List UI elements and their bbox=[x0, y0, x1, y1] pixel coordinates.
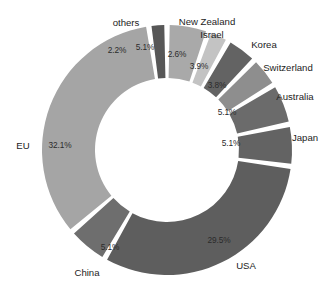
slice-label-japan: Japan bbox=[292, 132, 318, 143]
slice-label-others: others bbox=[113, 17, 140, 28]
slice-value-korea: 3.9% bbox=[190, 61, 209, 71]
slice-label-usa: USA bbox=[236, 260, 256, 271]
slice-value-usa: 29.5% bbox=[207, 235, 230, 245]
donut-slice-japan bbox=[238, 127, 292, 164]
slice-value-australia: 5.1% bbox=[218, 107, 237, 117]
slice-value-eu: 32.1% bbox=[48, 140, 71, 150]
slice-label-switzerland: Switzerland bbox=[263, 62, 313, 73]
slice-label-australia: Australia bbox=[276, 91, 313, 102]
donut-slice-usa bbox=[107, 161, 290, 275]
slice-label-new-zealand: New Zealand bbox=[179, 16, 236, 27]
slice-value-china: 5.1% bbox=[101, 242, 120, 252]
slice-value-japan: 5.1% bbox=[222, 138, 241, 148]
slice-value-new-zealand: 5.1% bbox=[136, 42, 155, 52]
slice-label-china: China bbox=[74, 267, 99, 278]
slice-label-korea: Korea bbox=[251, 39, 277, 50]
slice-value-israel: 2.6% bbox=[168, 49, 187, 59]
slice-label-israel: Israel bbox=[200, 29, 223, 40]
donut-slice-eu bbox=[42, 27, 155, 230]
slice-value-switzerland: 3.8% bbox=[208, 80, 227, 90]
donut-slices bbox=[42, 25, 292, 275]
donut-chart: 5.1% 2.6% 3.9% 3.8% 5.1% 5.1% 29.5% 5.1%… bbox=[0, 0, 335, 291]
slice-value-others: 2.2% bbox=[108, 45, 127, 55]
slice-label-eu: EU bbox=[16, 140, 29, 151]
